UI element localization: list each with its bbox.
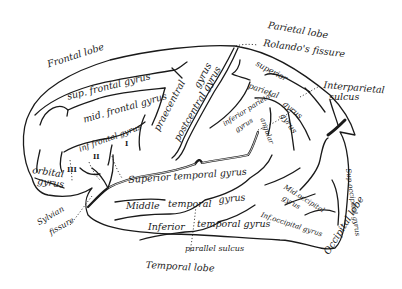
- label-inferior-temporal-1: Inferior: [148, 222, 185, 232]
- label-middle-temporal-2: temporal: [168, 199, 212, 209]
- label-inferior-temporal-2: temporal gyrus: [197, 219, 271, 229]
- label-parallel-sulcus: parallel sulcus: [185, 245, 244, 253]
- brain-lateral-diagram: Frontal lobe Parietal lobe Temporal lobe…: [0, 0, 402, 289]
- marker-ii: II: [93, 153, 100, 160]
- label-interparietal-sulcus-line2: sulcus: [329, 92, 359, 102]
- marker-iii: III: [67, 166, 77, 173]
- label-middle-temporal-1: Middle: [126, 201, 160, 211]
- marker-i: I: [125, 140, 128, 147]
